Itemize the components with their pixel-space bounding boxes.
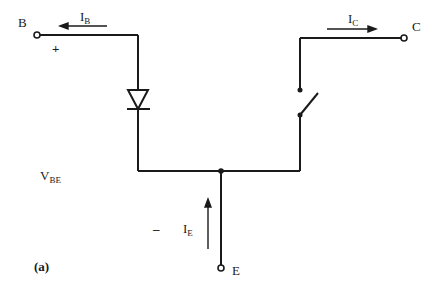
- collector-label: C: [412, 20, 421, 33]
- emitter-terminal: [218, 265, 224, 271]
- diode-icon: [128, 90, 148, 109]
- current-subscript: C: [352, 18, 358, 28]
- base-current-label: IB: [80, 10, 90, 26]
- emitter-current-label: IE: [183, 222, 193, 238]
- current-subscript: B: [84, 16, 90, 26]
- emitter-label: E: [232, 264, 240, 277]
- collector-current-label: IC: [348, 12, 358, 28]
- base-terminal: [34, 32, 40, 38]
- junction-dot: [218, 168, 224, 174]
- voltage-subscript: BE: [49, 175, 61, 185]
- switch-pivot-dot: [298, 113, 303, 118]
- switch-icon: [300, 93, 318, 115]
- arrowhead-up-icon: [205, 199, 211, 207]
- arrowhead-right-icon: [368, 26, 376, 32]
- switch-contact-dot: [298, 88, 303, 93]
- arrowhead-left-icon: [60, 23, 68, 29]
- circuit-diagram: [0, 0, 443, 296]
- current-subscript: E: [187, 228, 193, 238]
- vbe-label: VBE: [40, 169, 61, 185]
- minus-sign: –: [153, 222, 160, 235]
- base-label: B: [18, 16, 27, 29]
- figure-caption: (a): [34, 260, 49, 273]
- plus-sign: +: [52, 42, 59, 55]
- voltage-symbol: V: [40, 168, 49, 183]
- collector-terminal: [401, 35, 407, 41]
